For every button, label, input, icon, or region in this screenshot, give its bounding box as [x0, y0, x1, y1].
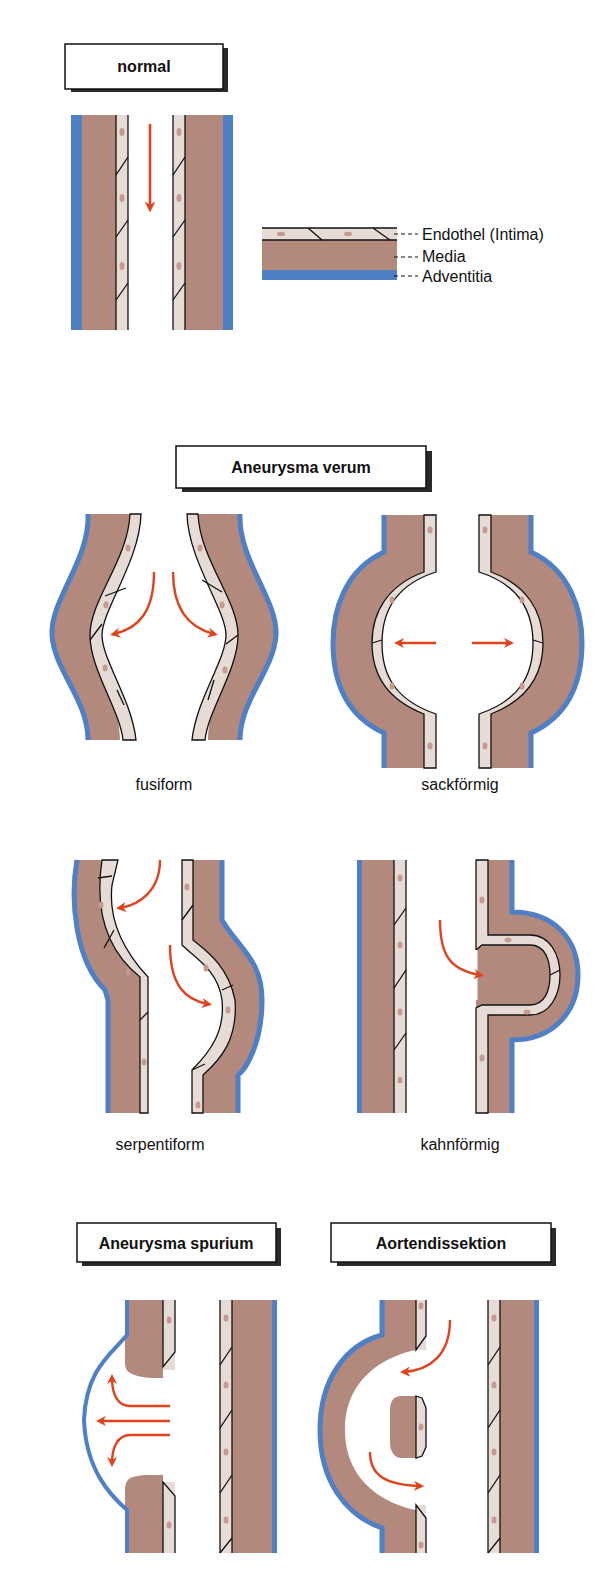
- fusiform-vessel: [52, 514, 276, 740]
- title-box-verum: Aneurysma verum: [176, 446, 432, 492]
- title-box-normal: normal: [65, 44, 228, 92]
- legend-media: Media: [422, 248, 466, 265]
- label-fusiform: fusiform: [136, 776, 193, 793]
- label-sackformig: sackförmig: [421, 776, 498, 793]
- kahnformig-arrow-icon: [440, 920, 480, 975]
- label-serpentiform: serpentiform: [116, 1136, 205, 1153]
- label-kahnformig: kahnförmig: [420, 1136, 499, 1153]
- title-box-spurium: Aneurysma spurium: [77, 1223, 281, 1266]
- serpentiform-vessel: [74, 860, 262, 1113]
- spurium-vessel: [84, 1300, 277, 1553]
- legend-endothel: Endothel (Intima): [422, 226, 544, 243]
- title-spurium: Aneurysma spurium: [99, 1235, 254, 1252]
- legend-adventitia: Adventitia: [422, 268, 492, 285]
- layer-legend: Endothel (Intima) Media Adventitia: [262, 226, 544, 285]
- sackformig-vessel: [333, 515, 582, 768]
- normal-vessel: [71, 115, 233, 330]
- dissektion-vessel: [320, 1300, 539, 1553]
- title-box-dissektion: Aortendissektion: [331, 1223, 556, 1266]
- title-verum: Aneurysma verum: [231, 459, 371, 476]
- title-normal: normal: [117, 58, 170, 75]
- kahnformig-vessel: [357, 860, 578, 1113]
- fusiform-arrows-icon: [114, 572, 214, 634]
- title-dissektion: Aortendissektion: [376, 1235, 507, 1252]
- spurium-arrows-icon: [100, 1378, 170, 1463]
- aneurysm-diagram: normal Endothel (Intima: [0, 0, 604, 1583]
